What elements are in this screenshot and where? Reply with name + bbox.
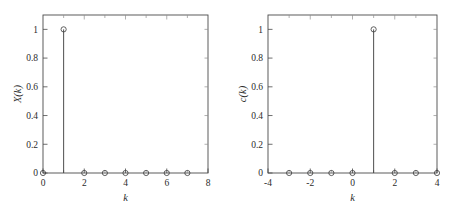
y-tick-label: 0.6 (26, 82, 38, 92)
y-ticks-right-panel (268, 29, 273, 173)
y-tick-label: 0.8 (251, 53, 263, 63)
x-ticks-top-left (64, 15, 188, 20)
x-tick-label: 2 (392, 178, 397, 188)
x-tick-label: 0 (41, 178, 46, 188)
x-axis-label: k (123, 192, 128, 203)
x-tick-label: 6 (164, 178, 169, 188)
x-tick-label: -4 (264, 178, 272, 188)
x-ticks-top-right (289, 15, 416, 20)
y-tick-label: 0.2 (26, 140, 38, 150)
y-tick-label: 0 (258, 168, 263, 178)
y-tick-label: 0.2 (251, 140, 263, 150)
y-tick-label: 0.6 (251, 82, 263, 92)
y-ticks-right-edge-right-panel (434, 29, 438, 144)
stem-series-right (287, 27, 440, 176)
y-axis-label: c(k) (237, 85, 249, 102)
x-tick-label: 2 (82, 178, 87, 188)
x-tick-label: 0 (350, 178, 355, 188)
x-tick-label: -2 (306, 178, 314, 188)
y-tick-label: 0.4 (26, 111, 38, 121)
y-tick-label: 0.8 (26, 53, 38, 63)
chart-panel-right: 1 0.8 0.6 0.4 0.2 0 -4 -2 0 2 4 k c(k) (226, 0, 452, 216)
x-tick-label: 8 (206, 178, 211, 188)
y-ticks-right-left-panel (205, 29, 209, 144)
axis-frame-right (268, 15, 437, 173)
y-tick-label: 1 (258, 25, 263, 35)
axis-frame-left (43, 15, 208, 173)
figure-container: 1 0.8 0.6 0.4 0.2 0 0 2 4 6 8 k X(k) (0, 0, 452, 216)
y-axis-label: X(k) (12, 84, 24, 104)
y-tick-label: 0 (33, 168, 38, 178)
stem-series-left (40, 27, 190, 176)
x-tick-label: 4 (435, 178, 440, 188)
plot-left-svg: 1 0.8 0.6 0.4 0.2 0 0 2 4 6 8 k X(k) (0, 0, 226, 216)
x-tick-label: 4 (123, 178, 128, 188)
y-tick-label: 0.4 (251, 111, 263, 121)
plot-right-svg: 1 0.8 0.6 0.4 0.2 0 -4 -2 0 2 4 k c(k) (226, 0, 452, 216)
x-axis-label: k (350, 192, 355, 203)
chart-panel-left: 1 0.8 0.6 0.4 0.2 0 0 2 4 6 8 k X(k) (0, 0, 226, 216)
y-ticks-left (43, 29, 48, 173)
y-tick-label: 1 (33, 25, 38, 35)
